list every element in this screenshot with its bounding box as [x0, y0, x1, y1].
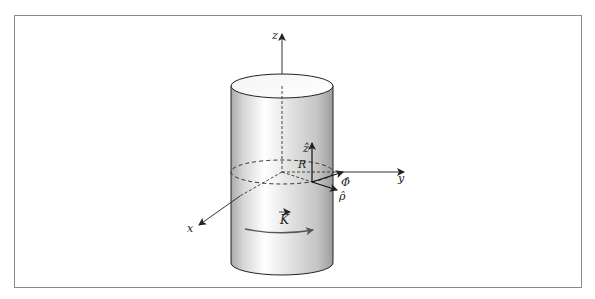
diagram-stage: z y x ẑ R Φ̂ ρ̂ K — [0, 0, 595, 299]
rho-hat-label: ρ̂ — [338, 190, 346, 203]
x-axis-label: x — [187, 222, 194, 235]
cylinder-diagram: z y x ẑ R Φ̂ ρ̂ K — [0, 0, 595, 299]
current-label: K — [279, 213, 290, 227]
z-hat-label: ẑ — [302, 142, 309, 155]
phi-hat-label: Φ̂ — [341, 176, 350, 189]
z-axis-label: z — [271, 29, 278, 42]
y-axis-label: y — [397, 172, 405, 185]
radius-label: R — [297, 158, 306, 171]
